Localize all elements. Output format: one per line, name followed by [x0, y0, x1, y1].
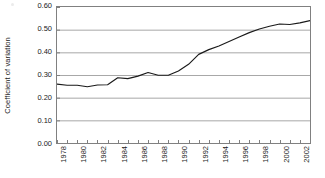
x-tick-label: 1984 — [121, 146, 129, 163]
x-axis-tick-labels: 1978198019821984198619881990199219941996… — [0, 146, 325, 178]
x-tick-marks — [58, 140, 311, 143]
y-tick-label: 0.50 — [14, 25, 52, 33]
x-tick-label-text: 1980 — [80, 146, 88, 163]
x-tick-label: 1990 — [181, 146, 189, 163]
y-tick-marks — [57, 8, 60, 144]
plot-area — [56, 6, 311, 144]
x-tick-label: 1996 — [242, 146, 250, 163]
x-tick-label: 1988 — [161, 146, 169, 163]
y-tick-label: 0.20 — [14, 94, 52, 102]
y-tick-label: 0.60 — [14, 2, 52, 10]
x-tick-label-text: 1998 — [262, 146, 270, 163]
x-tick-label-text: 1992 — [202, 146, 210, 163]
x-tick-label: 2002 — [303, 146, 311, 163]
y-tick-label: 0.10 — [14, 117, 52, 125]
x-tick-label: 2000 — [283, 146, 291, 163]
x-tick-label: 1986 — [141, 146, 149, 163]
x-tick-label: 1994 — [222, 146, 230, 163]
x-tick-label-text: 1978 — [60, 146, 68, 163]
x-tick-label-text: 1990 — [181, 146, 189, 163]
x-tick-label: 1978 — [60, 146, 68, 163]
x-tick-label-text: 1982 — [100, 146, 108, 163]
gridlines — [57, 30, 310, 121]
x-tick-label-text: 1984 — [121, 146, 129, 163]
x-tick-label: 1992 — [202, 146, 210, 163]
x-tick-label-text: 1986 — [141, 146, 149, 163]
y-tick-label: 0.30 — [14, 71, 52, 79]
y-axis-title: Coefficient of variation — [0, 0, 14, 150]
x-tick-label: 1980 — [80, 146, 88, 163]
x-tick-label-text: 1994 — [222, 146, 230, 163]
x-tick-label-text: 2002 — [303, 146, 311, 163]
chart-canvas — [57, 7, 310, 143]
x-tick-label: 1982 — [100, 146, 108, 163]
chart-figure: Coefficient of variation 0.60 0.50 0.40 … — [0, 0, 325, 178]
x-tick-label-text: 1988 — [161, 146, 169, 163]
x-tick-label-text: 1996 — [242, 146, 250, 163]
x-tick-label: 1998 — [262, 146, 270, 163]
y-axis-title-text: Coefficient of variation — [3, 37, 12, 113]
y-tick-label: 0.40 — [14, 48, 52, 56]
x-tick-label-text: 2000 — [283, 146, 291, 163]
